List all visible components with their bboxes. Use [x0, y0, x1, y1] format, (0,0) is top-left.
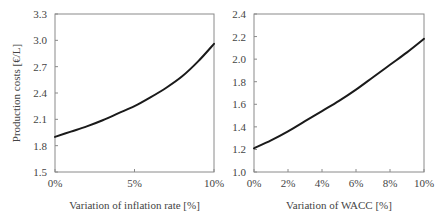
y-tick-label: 2.1	[33, 113, 47, 125]
y-tick-label: 1.6	[232, 98, 246, 110]
y-tick-label: 1.2	[232, 143, 246, 155]
x-tick-label: 10%	[204, 177, 224, 189]
x-tick-label: 4%	[315, 177, 330, 189]
plot-frame	[254, 14, 424, 172]
x-tick-label: 0%	[247, 177, 262, 189]
y-axis-label: Production costs [€/L]	[10, 44, 22, 142]
y-tick-label: 3.3	[33, 8, 47, 20]
y-tick-label: 2.7	[33, 61, 47, 73]
x-tick-label: 2%	[281, 177, 296, 189]
y-tick-label: 3.0	[33, 34, 47, 46]
y-tick-label: 2.0	[232, 53, 246, 65]
x-tick-label: 6%	[349, 177, 364, 189]
y-tick-label: 1.8	[33, 140, 47, 152]
y-tick-label: 2.2	[232, 31, 246, 43]
wacc-chart: 1.01.21.41.61.82.02.22.40%2%4%6%8%10%Var…	[232, 8, 434, 211]
x-tick-label: 0%	[48, 177, 63, 189]
x-tick-label: 5%	[127, 177, 142, 189]
y-tick-label: 1.8	[232, 76, 246, 88]
y-tick-label: 1.0	[232, 166, 246, 178]
plot-frame	[55, 14, 214, 172]
x-tick-label: 10%	[414, 177, 434, 189]
y-tick-label: 2.4	[232, 8, 246, 20]
production-cost-line	[254, 39, 424, 148]
x-tick-label: 8%	[383, 177, 398, 189]
y-tick-label: 1.5	[33, 166, 47, 178]
inflation-rate-chart: 1.51.82.12.42.73.03.30%5%10%Variation of…	[10, 8, 224, 211]
figure: 1.51.82.12.42.73.03.30%5%10%Variation of…	[0, 0, 448, 219]
x-axis-label: Variation of inflation rate [%]	[69, 199, 200, 211]
y-tick-label: 1.4	[232, 121, 246, 133]
x-axis-label: Variation of WACC [%]	[286, 199, 392, 211]
production-cost-line	[55, 44, 214, 137]
y-tick-label: 2.4	[33, 87, 47, 99]
